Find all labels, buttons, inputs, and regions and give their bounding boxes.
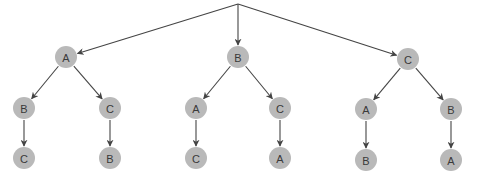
node-label: A [362, 104, 370, 116]
tree-node-a: A [55, 46, 77, 68]
tree-node-a: A [440, 149, 462, 171]
tree-node-c: C [185, 147, 207, 169]
node-label: A [192, 103, 200, 115]
node-label: B [106, 153, 113, 165]
tree-node-b: B [440, 98, 462, 120]
arrow-edge [32, 66, 59, 98]
permutation-tree-diagram: ABCBCACABCBCABA [0, 0, 478, 182]
arrow-edge [374, 68, 401, 100]
arrow-edge [204, 66, 231, 98]
node-label: C [20, 153, 28, 165]
arrow-edge [246, 66, 273, 98]
arrow-edge [77, 4, 238, 53]
node-label: A [62, 52, 70, 64]
tree-node-b: B [355, 149, 377, 171]
tree-node-b: B [99, 147, 121, 169]
tree-node-b: B [227, 46, 249, 68]
tree-node-a: A [185, 97, 207, 119]
tree-node-b: B [13, 97, 35, 119]
node-label: B [20, 103, 27, 115]
edges [24, 4, 451, 148]
tree-node-c: C [397, 48, 419, 70]
node-label: C [106, 103, 114, 115]
arrow-edge [416, 68, 443, 100]
node-label: B [447, 104, 454, 116]
tree-node-c: C [269, 97, 291, 119]
node-label: B [362, 155, 369, 167]
tree-node-c: C [13, 147, 35, 169]
tree-node-c: C [99, 97, 121, 119]
node-label: A [447, 155, 455, 167]
node-label: C [404, 54, 412, 66]
node-label: A [276, 153, 284, 165]
nodes: ABCBCACABCBCABA [13, 46, 462, 171]
tree-node-a: A [269, 147, 291, 169]
tree-node-a: A [355, 98, 377, 120]
arrow-edge [238, 4, 397, 55]
arrow-edge [74, 66, 102, 99]
node-label: C [192, 153, 200, 165]
node-label: C [276, 103, 284, 115]
node-label: B [234, 52, 241, 64]
